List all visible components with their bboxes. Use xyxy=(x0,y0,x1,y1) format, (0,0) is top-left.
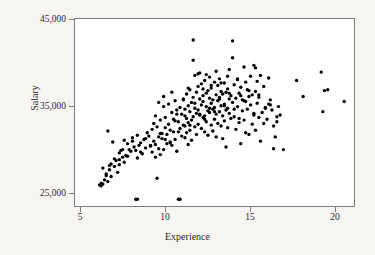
data-point xyxy=(218,97,221,100)
data-point xyxy=(208,107,211,110)
data-point xyxy=(239,86,242,89)
data-point xyxy=(154,155,157,158)
data-point xyxy=(208,111,211,114)
data-point xyxy=(196,85,199,88)
data-point xyxy=(175,150,178,153)
data-point xyxy=(113,165,116,168)
data-point xyxy=(131,139,134,142)
data-point xyxy=(164,138,167,141)
data-point xyxy=(178,106,181,109)
data-point xyxy=(234,97,237,100)
data-point xyxy=(224,145,227,148)
data-point xyxy=(223,119,226,122)
data-point xyxy=(187,104,190,107)
data-point xyxy=(203,114,206,117)
x-axis-title: Experience xyxy=(0,232,375,242)
data-point xyxy=(129,150,132,153)
data-point xyxy=(234,128,237,131)
data-point xyxy=(226,107,229,110)
data-point xyxy=(210,84,213,87)
y-axis-title: Salary xyxy=(30,85,40,111)
data-point xyxy=(106,180,109,183)
data-point xyxy=(183,124,186,127)
data-point xyxy=(200,127,203,130)
data-point xyxy=(228,68,231,71)
data-point xyxy=(239,94,242,97)
data-point xyxy=(342,100,345,103)
data-point xyxy=(175,108,178,111)
data-point xyxy=(211,98,214,101)
data-point xyxy=(233,83,236,86)
data-point xyxy=(203,79,206,82)
data-point xyxy=(175,113,178,116)
data-point xyxy=(295,79,298,82)
data-point xyxy=(221,92,224,95)
data-point xyxy=(195,91,198,94)
data-point xyxy=(180,134,183,137)
data-point xyxy=(136,198,139,201)
data-point xyxy=(187,86,190,89)
data-point xyxy=(101,182,104,185)
data-point xyxy=(152,122,155,125)
data-point xyxy=(193,125,196,128)
data-point xyxy=(214,70,217,73)
data-point xyxy=(219,104,222,107)
data-point xyxy=(233,115,236,118)
data-point xyxy=(203,130,206,133)
data-point xyxy=(216,122,219,125)
data-point xyxy=(118,158,121,161)
data-point xyxy=(144,137,147,140)
data-point xyxy=(191,59,194,62)
data-point xyxy=(214,135,217,138)
data-point xyxy=(233,107,236,110)
data-point xyxy=(275,115,278,118)
data-point xyxy=(188,129,191,132)
data-point xyxy=(131,136,134,139)
data-point xyxy=(255,102,258,105)
x-tick-label-15: 15 xyxy=(230,213,270,223)
data-point xyxy=(101,166,104,169)
data-point xyxy=(210,123,213,126)
data-point xyxy=(104,174,107,177)
data-point xyxy=(168,129,171,132)
data-point xyxy=(208,97,211,100)
data-point xyxy=(254,129,257,132)
data-point xyxy=(159,132,162,135)
data-point xyxy=(226,87,229,90)
data-point xyxy=(167,102,170,105)
data-point xyxy=(193,102,196,105)
data-point xyxy=(183,107,186,110)
data-point xyxy=(195,133,198,136)
data-point xyxy=(191,96,194,99)
data-point xyxy=(182,97,185,100)
data-point xyxy=(150,128,153,131)
data-point xyxy=(259,74,262,77)
data-point xyxy=(249,75,252,78)
data-point xyxy=(242,65,245,68)
scatter-plot-figure: 45,000 35,000 25,000 5 10 15 20 Salary E… xyxy=(0,0,375,255)
data-point xyxy=(223,81,226,84)
data-point xyxy=(162,148,165,151)
data-point xyxy=(118,163,121,166)
data-point xyxy=(206,134,209,137)
data-point xyxy=(188,110,191,113)
data-point xyxy=(152,139,155,142)
data-point xyxy=(241,109,244,112)
data-point xyxy=(187,143,190,146)
data-point xyxy=(159,118,162,121)
data-point xyxy=(172,130,175,133)
data-point xyxy=(242,118,245,121)
data-point xyxy=(157,135,160,138)
data-point xyxy=(103,178,106,181)
data-point xyxy=(180,113,183,116)
data-point xyxy=(167,123,170,126)
data-point xyxy=(195,112,198,115)
data-point xyxy=(188,123,191,126)
data-point xyxy=(226,126,229,129)
data-point xyxy=(183,114,186,117)
data-point xyxy=(139,150,142,153)
data-point xyxy=(228,97,231,100)
data-point xyxy=(239,142,242,145)
data-point xyxy=(190,139,193,142)
data-point xyxy=(247,133,250,136)
